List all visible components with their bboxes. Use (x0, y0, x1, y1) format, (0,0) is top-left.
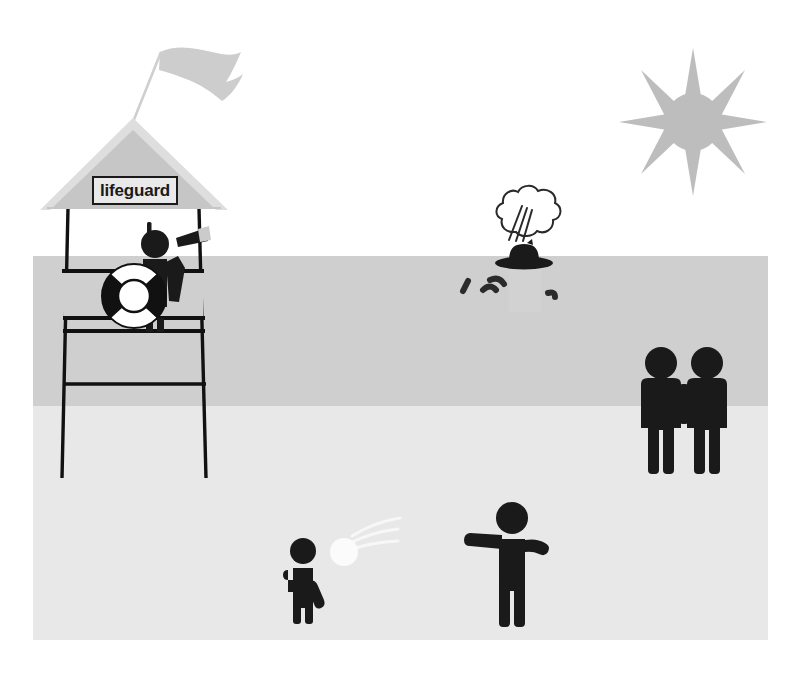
leg-left (499, 583, 510, 627)
head (496, 502, 528, 534)
lifeguard-leg-2 (157, 318, 164, 332)
beach-illustration: lifeguard (0, 0, 794, 678)
sun-icon (619, 48, 767, 196)
leg-right (663, 424, 674, 474)
leg-right (514, 583, 525, 627)
leg-right (305, 600, 313, 624)
leg-left (293, 600, 301, 624)
head (290, 538, 316, 564)
lifeguard-head (141, 230, 169, 258)
lifeguard-sign-label: lifeguard (100, 181, 170, 200)
beach-ball (330, 538, 358, 566)
leg-right (709, 424, 720, 474)
body (648, 384, 674, 430)
head (645, 347, 677, 379)
leg-left (648, 424, 659, 474)
swimmer-body-block (509, 268, 541, 312)
body (694, 384, 720, 430)
life-ring-icon (102, 264, 166, 328)
joined-hands (679, 384, 689, 424)
head (691, 347, 723, 379)
sun-core (665, 93, 721, 151)
beach-scene-root: lifeguard (0, 0, 794, 678)
leg-left (694, 424, 705, 474)
